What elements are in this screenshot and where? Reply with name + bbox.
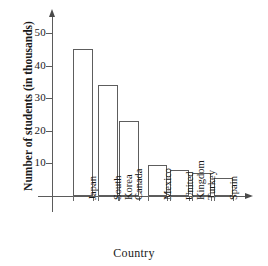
category-label-line1: Spain: [228, 176, 239, 200]
x-axis-tick: [119, 196, 120, 201]
y-axis-line: [52, 16, 53, 212]
x-axis-tick: [170, 196, 171, 201]
y-axis-arrow-icon: [49, 9, 55, 17]
y-axis-title: Number of students (in thousands): [22, 16, 34, 196]
x-axis-title: Country: [0, 246, 268, 261]
category-label-line1: South: [112, 175, 123, 200]
y-axis-tick-label: 10: [20, 157, 46, 168]
y-axis-tick: [46, 163, 53, 164]
y-axis-tick: [46, 131, 53, 132]
x-axis-tick: [192, 196, 193, 201]
y-axis-tick-label: 40: [20, 60, 46, 71]
x-axis-tick: [98, 196, 99, 201]
x-axis-tick: [214, 196, 215, 201]
x-axis-line: [38, 196, 250, 197]
y-axis-tick-label: 30: [20, 92, 46, 103]
category-label-line1: Japan: [87, 176, 98, 200]
x-axis-category-label: Canada: [133, 169, 144, 201]
y-axis-tick: [46, 66, 53, 67]
x-axis-arrow-icon: [245, 193, 253, 199]
x-axis-category-label: UnitedKingdom: [184, 160, 206, 200]
category-label-line1: Canada: [133, 169, 144, 201]
category-label-line2: Kingdom: [195, 160, 206, 200]
y-axis-tick: [46, 33, 53, 34]
bar: [73, 49, 93, 196]
y-axis-tick-label: 50: [20, 27, 46, 38]
x-axis-category-label: SouthKorea: [112, 174, 134, 200]
x-axis-tick: [73, 196, 74, 201]
x-axis-tick: [148, 196, 149, 201]
x-axis-category-label: Spain: [228, 176, 239, 200]
y-axis-tick-label: 20: [20, 125, 46, 136]
bar-chart: Number of students (in thousands) 504030…: [0, 0, 268, 266]
y-axis-tick: [46, 98, 53, 99]
x-axis-category-label: Japan: [87, 176, 98, 200]
